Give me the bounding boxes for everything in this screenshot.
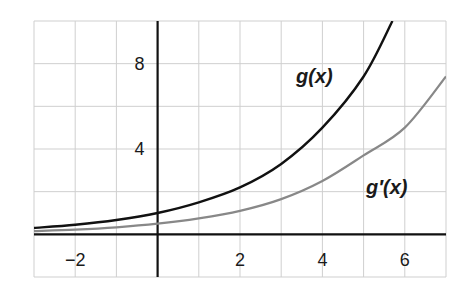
x-tick-label: 6 — [400, 250, 410, 270]
x-tick-label: 4 — [317, 250, 327, 270]
y-tick-label: 8 — [135, 54, 145, 74]
x-tick-label: 2 — [235, 250, 245, 270]
exponential-chart: −224648 g(x) g′(x) — [0, 0, 465, 294]
x-tick-label: −2 — [65, 250, 86, 270]
label-g: g(x) — [295, 65, 333, 87]
curve-g — [34, 21, 392, 228]
label-g-prime: g′(x) — [365, 176, 408, 198]
grid — [34, 21, 446, 277]
y-tick-label: 4 — [135, 139, 145, 159]
